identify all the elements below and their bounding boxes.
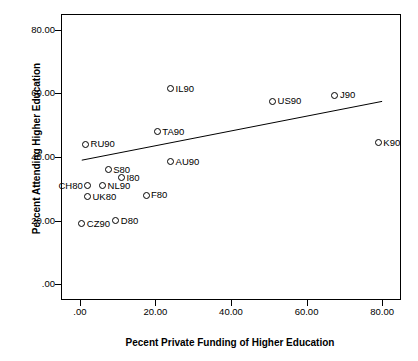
data-point: [375, 139, 382, 146]
data-point-label: D80: [121, 215, 138, 226]
data-point-label: UK80: [92, 191, 116, 202]
data-point: [82, 141, 89, 148]
x-tick-mark: [307, 300, 308, 306]
data-point: [143, 192, 150, 199]
x-tick-mark: [80, 300, 81, 306]
y-tick-label: 60.00: [11, 87, 55, 98]
data-point-label: J90: [340, 89, 355, 100]
trend-line: [61, 14, 401, 300]
y-axis-title: Percent Attending Higher Education: [31, 24, 42, 274]
data-point-label: RU90: [91, 138, 115, 149]
data-point: [84, 182, 91, 189]
data-point-label: TA90: [162, 126, 184, 137]
x-tick-label: 20.00: [130, 306, 180, 317]
x-axis-title: Pecent Private Funding of Higher Educati…: [60, 337, 400, 348]
x-tick-mark: [155, 300, 156, 306]
data-point-label: AU90: [176, 156, 200, 167]
x-tick-label: 80.00: [357, 306, 407, 317]
scatter-chart: Percent Attending Higher Education Pecen…: [0, 0, 418, 361]
data-point: [105, 166, 112, 173]
data-point-label: F80: [151, 189, 167, 200]
data-point-label: K90: [383, 137, 400, 148]
y-tick-label: 40.00: [11, 151, 55, 162]
x-tick-mark: [382, 300, 383, 306]
y-tick-label: 80.00: [11, 24, 55, 35]
data-point: [154, 128, 161, 135]
data-point-label: IL90: [176, 83, 195, 94]
data-point-label: CH80: [58, 180, 82, 191]
data-point-label: NL90: [108, 180, 131, 191]
data-point: [269, 98, 276, 105]
x-tick-mark: [231, 300, 232, 306]
x-tick-label: 60.00: [282, 306, 332, 317]
data-point-label: CZ90: [87, 218, 110, 229]
x-tick-label: .00: [55, 306, 105, 317]
data-point: [331, 92, 338, 99]
y-tick-label: 20.00: [11, 215, 55, 226]
y-tick-label: .00: [11, 278, 55, 289]
x-tick-label: 40.00: [206, 306, 256, 317]
data-point-label: US90: [278, 95, 302, 106]
